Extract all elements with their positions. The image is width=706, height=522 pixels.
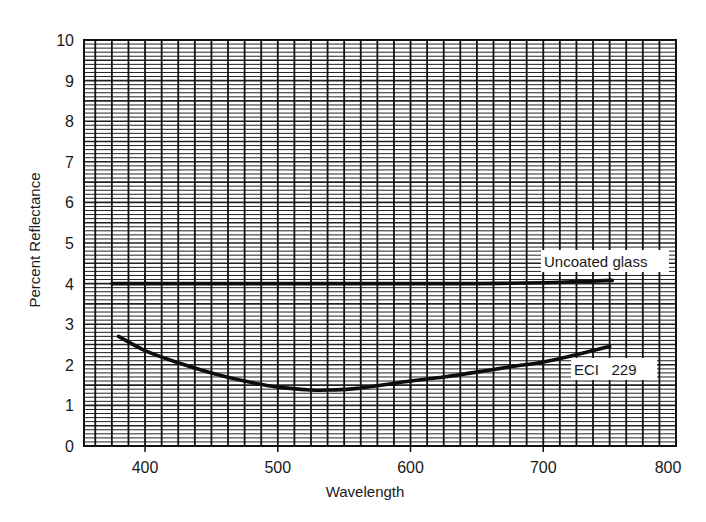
x-tick-label: 400 <box>132 459 159 476</box>
svg-text:Uncoated glass: Uncoated glass <box>544 253 647 270</box>
x-axis-title: Wavelength <box>326 483 405 500</box>
y-axis-ticks: 012345678910 <box>56 32 74 455</box>
y-axis-title: Percent Reflectance <box>26 172 43 307</box>
y-tick-label: 8 <box>65 113 74 130</box>
y-tick-label: 1 <box>65 397 74 414</box>
reflectance-chart: 400500600700800 012345678910 Uncoated gl… <box>0 0 706 522</box>
y-tick-label: 7 <box>65 154 74 171</box>
x-tick-label: 700 <box>530 459 557 476</box>
y-tick-label: 9 <box>65 73 74 90</box>
uncoated-glass-label: Uncoated glass <box>541 250 669 272</box>
x-tick-label: 600 <box>397 459 424 476</box>
y-tick-label: 5 <box>65 235 74 252</box>
y-tick-label: 2 <box>65 357 74 374</box>
eci-229-label: ECI 229 <box>571 358 657 380</box>
svg-text:ECI 229: ECI 229 <box>574 361 637 378</box>
uncoated-glass-curve <box>112 280 612 283</box>
x-axis-ticks: 400500600700800 <box>132 446 682 476</box>
y-tick-label: 4 <box>65 276 74 293</box>
y-tick-label: 6 <box>65 194 74 211</box>
x-tick-label: 800 <box>655 459 682 476</box>
y-tick-label: 3 <box>65 316 74 333</box>
y-tick-label: 0 <box>65 438 74 455</box>
y-tick-label: 10 <box>56 32 74 49</box>
x-tick-label: 500 <box>264 459 291 476</box>
